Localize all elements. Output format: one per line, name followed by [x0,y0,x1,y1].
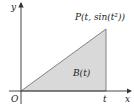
y-axis-label: y [10,2,17,12]
x-axis-label: x [125,94,130,104]
t-tick-label: t [103,94,107,104]
region-b-triangle [21,29,106,91]
origin-label: O [11,94,19,104]
region-b-label: B(t) [72,68,91,78]
diagram-canvas: y x O t P(t, sin(t²)) B(t) [0,0,134,107]
point-p-label: P(t, sin(t²)) [74,12,125,22]
